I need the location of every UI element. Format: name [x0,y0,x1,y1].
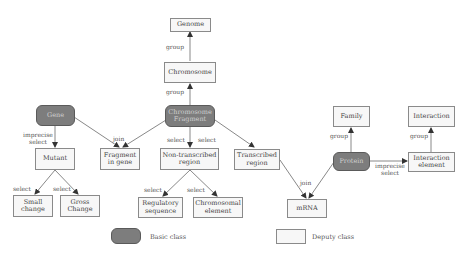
node-transcribed-region: Transcribed region [234,149,280,170]
edge-label-nontranscribed-regulatory: select [144,187,162,194]
edge-protein-mrna [309,162,334,198]
node-mutant: Mutant [35,148,75,170]
edge-label-interaction-element-interaction: group [410,133,428,140]
node-non-transcribed-region: Non-transcribed region [160,148,219,170]
node-chromosome: Chromosome [164,62,216,83]
legend-deputy-label: Deputy class [312,233,354,241]
node-gross-change: Gross Change [60,195,100,217]
class-hierarchy-diagram: Genome Chromosome Gene Chromosome Fragme… [0,0,470,260]
edge-mutant-small [35,170,55,194]
edge-label-join-mrna: join [300,180,311,187]
node-mrna: mRNA [287,199,327,218]
edge-label-protein-interaction-element: imprecise select [372,163,408,176]
edge-label-chromosome-genome: group [166,44,184,51]
node-interaction: Interaction [408,106,455,127]
node-regulatory-sequence: Regulatory sequence [138,197,183,218]
edge-label-fragment-select-right: select [198,137,216,144]
legend-deputy-swatch [276,229,306,244]
node-chromosomal-element: Chromosomal element [193,197,243,218]
node-gene: Gene [36,105,75,126]
edges-layer [0,0,470,260]
node-small-change: Small change [13,195,53,217]
node-protein: Protein [333,152,370,171]
edge-label-mutant-small: select [13,186,31,193]
edge-fragment-transcribed [215,120,254,147]
edge-nontranscribed-regulatory [163,170,190,196]
node-interaction-element: Interaction element [408,152,455,172]
edge-label-gene-mutant: imprecise select [22,132,54,145]
edge-label-mutant-gross: select [53,186,71,193]
node-fragment-in-gene: Fragment in gene [100,148,140,170]
node-genome: Genome [170,18,211,32]
legend-basic-swatch [111,228,141,244]
node-family: Family [333,106,370,127]
edge-label-protein-family: group [330,133,348,140]
edge-label-nontranscribed-chromosomal: select [187,187,205,194]
legend-basic-label: Basic class [150,233,186,241]
edge-fragment-fragment-in-gene [123,120,166,147]
edge-label-fragment-chromosome: group [166,89,184,96]
edge-label-join-fragment-in-gene: join [113,136,124,143]
node-chromosome-fragment: Chromosome Fragment [165,105,215,127]
edge-label-fragment-select-left: select [167,137,185,144]
edge-gene-fragment-in-gene [74,117,119,147]
